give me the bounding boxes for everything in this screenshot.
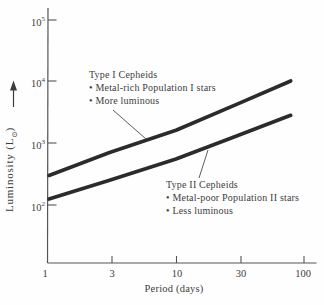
type2-annotation-title: Type II Cepheids [166,178,299,191]
y-tick-label-1e4: 104 [15,74,45,90]
x-tick-marks [112,256,304,263]
type1-annotation-bullet: • Metal-rich Population I stars [89,81,216,94]
x-tick-label-1: 1 [42,268,47,280]
x-tick-label-100: 100 [295,268,311,280]
y-axis-title: Luminosity (L⊙) [3,103,20,237]
y-tick-marks [48,20,57,205]
x-axis-title: Period (days) [145,283,204,295]
type2-annotation-bullet: • Metal-poor Population II stars [166,191,299,204]
y-tick-label-1e5: 105 [15,13,45,29]
type1-annotation-bullet: • More luminous [89,94,216,107]
x-tick-label-3: 3 [109,268,114,280]
x-tick-label-30: 30 [236,268,247,280]
type2-annotation: Type II Cepheids • Metal-poor Population… [166,178,299,217]
type1-leader-line [113,110,146,139]
type1-annotation: Type I Cepheids • Metal-rich Population … [89,68,216,107]
y-axis-line [48,8,49,263]
plot-canvas [0,0,324,305]
type2-annotation-bullet: • Less luminous [166,204,299,217]
type2-leader-line [199,150,208,178]
type1-annotation-title: Type I Cepheids [89,68,216,81]
cepheid-period-luminosity-figure: 105 104 103 102 1 3 10 30 100 Period (da… [0,0,324,305]
x-tick-label-10: 10 [172,268,183,280]
